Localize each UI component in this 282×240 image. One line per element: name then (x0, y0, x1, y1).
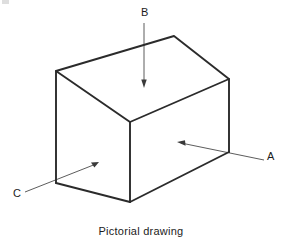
callout-label-a: A (267, 151, 275, 162)
callout-label-b: B (141, 7, 149, 18)
callout-label-c: C (13, 188, 21, 199)
pictorial-drawing-figure: A B C Pictorial drawing (0, 0, 282, 240)
figure-caption: Pictorial drawing (0, 225, 282, 237)
isometric-box-drawing (0, 0, 282, 240)
